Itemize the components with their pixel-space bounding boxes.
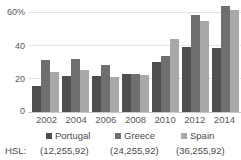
legend: Portugal Greece Spain: [0, 129, 241, 144]
bar[interactable]: [62, 76, 71, 112]
hsl-row-label: HSL:: [5, 144, 26, 157]
bar-group: [32, 0, 59, 112]
legend-label: Spain: [190, 130, 214, 142]
bar[interactable]: [170, 39, 179, 112]
bar[interactable]: [140, 75, 149, 112]
y-tick-label: 60%: [7, 8, 25, 17]
bar[interactable]: [221, 6, 230, 112]
legend-swatch-icon: [46, 133, 52, 139]
bar-groups: [28, 0, 241, 112]
y-axis: 60% 40 20 0: [0, 0, 28, 118]
legend-label: Portugal: [55, 130, 90, 142]
bar[interactable]: [122, 74, 131, 112]
bar[interactable]: [212, 48, 221, 112]
bar-group: [212, 0, 239, 112]
bar[interactable]: [101, 65, 110, 112]
bar[interactable]: [80, 70, 89, 112]
bar-group: [152, 0, 179, 112]
x-tick-label: 2002: [32, 113, 61, 129]
x-axis: 2002200420062008201020122014: [28, 113, 241, 129]
legend-swatch-icon: [181, 133, 187, 139]
legend-item-portugal[interactable]: Portugal: [46, 130, 90, 142]
hsl-row: HSL: (12,255,92) (24,255,92) (36,255,92): [0, 144, 241, 159]
bar[interactable]: [230, 10, 239, 112]
legend-item-spain[interactable]: Spain: [181, 130, 214, 142]
bar[interactable]: [182, 47, 191, 112]
bar[interactable]: [191, 15, 200, 112]
bar[interactable]: [92, 76, 101, 112]
bar[interactable]: [161, 56, 170, 112]
plot-area: 60% 40 20 0 2002200420062008201020122014: [0, 0, 241, 131]
hsl-value-portugal: (12,255,92): [40, 144, 89, 157]
bar[interactable]: [200, 21, 209, 112]
x-tick-label: 2014: [210, 113, 239, 129]
legend-item-greece[interactable]: Greece: [115, 130, 155, 142]
x-tick-label: 2004: [62, 113, 91, 129]
y-tick-label: 0: [20, 107, 25, 116]
bar[interactable]: [71, 59, 80, 112]
bar[interactable]: [152, 62, 161, 112]
legend-swatch-icon: [115, 133, 121, 139]
legend-label: Greece: [124, 130, 155, 142]
bar[interactable]: [131, 74, 140, 112]
x-tick-label: 2006: [91, 113, 120, 129]
bar-group: [92, 0, 119, 112]
hsl-value-greece: (24,255,92): [110, 144, 159, 157]
bar[interactable]: [50, 72, 59, 112]
x-tick-label: 2010: [151, 113, 180, 129]
bar-group: [62, 0, 89, 112]
x-tick-label: 2008: [121, 113, 150, 129]
bar-group: [122, 0, 149, 112]
bar[interactable]: [32, 86, 41, 112]
y-tick-label: 40: [15, 42, 25, 51]
bar[interactable]: [41, 60, 50, 112]
x-tick-label: 2012: [180, 113, 209, 129]
y-tick-label: 20: [15, 75, 25, 84]
bar-chart: 60% 40 20 0 2002200420062008201020122014…: [0, 0, 241, 160]
hsl-value-spain: (36,255,92): [176, 144, 225, 157]
bar[interactable]: [110, 77, 119, 112]
bar-group: [182, 0, 209, 112]
